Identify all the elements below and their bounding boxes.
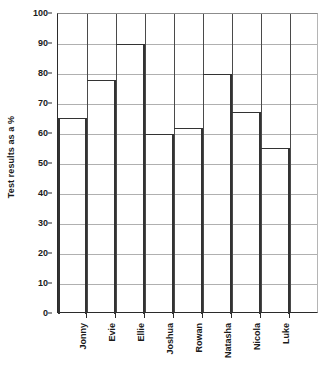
bar-joshua — [145, 134, 174, 314]
x-tick-mark — [260, 313, 261, 318]
bar-rowan — [174, 128, 203, 314]
y-tick-mark — [48, 193, 52, 194]
y-tick-label: 20 — [38, 248, 48, 258]
y-axis-title: Test results as a % — [0, 0, 22, 313]
x-tick-mark — [115, 313, 116, 318]
x-tick-label: Rowan — [192, 321, 206, 375]
horizontal-gridline — [58, 44, 317, 45]
plot-inner — [58, 14, 317, 312]
x-tick-mark — [202, 313, 203, 318]
y-tick-mark — [48, 103, 52, 104]
y-tick-mark — [48, 13, 52, 14]
x-tick-label: Nicola — [250, 321, 264, 375]
y-tick-label: 70 — [38, 98, 48, 108]
x-axis-tick-labels: JonnyEvieEllieJoshuaRowanNatashaNicolaLu… — [57, 313, 318, 375]
y-axis-tick-labels: 0102030405060708090100 — [22, 0, 52, 375]
x-tick-mark — [231, 313, 232, 318]
column-divider — [290, 14, 291, 312]
x-tick-mark — [144, 313, 145, 318]
y-tick-mark — [48, 73, 52, 74]
x-tick-label: Ellie — [134, 321, 148, 375]
bar-nicola — [232, 112, 261, 315]
bar-edge — [288, 148, 290, 315]
bar-chart: Test results as a % 01020304050607080901… — [0, 0, 331, 375]
bar-luke — [261, 148, 290, 315]
y-tick-label: 40 — [38, 188, 48, 198]
x-tick-label: Joshua — [163, 321, 177, 375]
y-tick-mark — [48, 313, 52, 314]
y-tick-label: 30 — [38, 218, 48, 228]
x-tick-mark — [173, 313, 174, 318]
y-tick-label: 90 — [38, 38, 48, 48]
y-tick-mark — [48, 163, 52, 164]
y-tick-mark — [48, 253, 52, 254]
bar-evie — [87, 80, 116, 314]
x-tick-label: Luke — [279, 321, 293, 375]
bar-ellie — [116, 44, 145, 314]
y-tick-mark — [48, 223, 52, 224]
bar-jonny — [58, 118, 87, 315]
y-tick-label: 60 — [38, 128, 48, 138]
plot-area — [57, 13, 318, 313]
x-tick-label: Evie — [105, 321, 119, 375]
horizontal-gridline — [58, 74, 317, 75]
y-tick-mark — [48, 283, 52, 284]
y-tick-label: 10 — [38, 278, 48, 288]
x-tick-label: Natasha — [221, 321, 235, 375]
bar-natasha — [203, 74, 232, 314]
y-tick-label: 100 — [33, 8, 48, 18]
y-axis-title-text: Test results as a % — [6, 115, 16, 197]
x-tick-mark — [289, 313, 290, 318]
y-tick-mark — [48, 43, 52, 44]
x-tick-mark — [86, 313, 87, 318]
x-tick-label: Jonny — [76, 321, 90, 375]
y-tick-label: 80 — [38, 68, 48, 78]
y-tick-mark — [48, 133, 52, 134]
y-tick-label: 50 — [38, 158, 48, 168]
bar-edge — [58, 118, 60, 315]
